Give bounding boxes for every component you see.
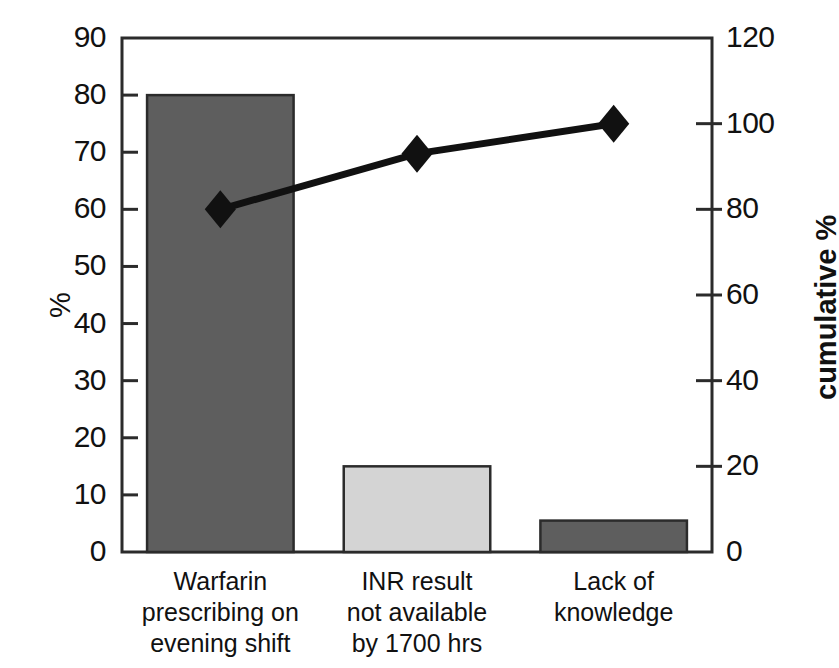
left-tick-label: 70 [20, 136, 106, 166]
y2-axis-title: cumulative % [812, 215, 839, 400]
x-category-label-line: INR result [319, 566, 516, 597]
x-category-label-line: not available [319, 597, 516, 628]
x-category-label-line: knowledge [515, 597, 712, 628]
x-category-label-line: evening shift [122, 628, 319, 659]
left-tick-label: 20 [20, 422, 106, 452]
right-tick-label: 100 [726, 108, 816, 138]
left-tick-label: 30 [20, 365, 106, 395]
x-category-label-line: Lack of [515, 566, 712, 597]
left-tick-label: 90 [20, 22, 106, 52]
left-tick-label: 80 [20, 79, 106, 109]
right-tick-label: 40 [726, 365, 816, 395]
pareto-chart: 9080706050403020100 120100806040200 % cu… [0, 0, 839, 668]
x-category-label-line: prescribing on [122, 597, 319, 628]
right-tick-label: 80 [726, 193, 816, 223]
x-category-label: INR resultnot availableby 1700 hrs [319, 566, 516, 659]
right-tick-label: 60 [726, 279, 816, 309]
diamond-marker [598, 105, 629, 143]
x-category-label: Warfarinprescribing onevening shift [122, 566, 319, 659]
bar [344, 466, 491, 552]
x-category-label: Lack ofknowledge [515, 566, 712, 628]
diamond-marker [401, 135, 432, 173]
right-tick-label: 120 [726, 22, 816, 52]
bar [147, 95, 294, 552]
left-tick-label: 60 [20, 193, 106, 223]
x-category-label-line: by 1700 hrs [319, 628, 516, 659]
left-axis-ticks [122, 95, 138, 495]
left-tick-label: 10 [20, 479, 106, 509]
left-tick-label: 0 [20, 536, 106, 566]
right-tick-label: 20 [726, 450, 816, 480]
right-axis-ticks [696, 124, 722, 467]
y-axis-title: % [46, 292, 75, 318]
left-tick-label: 50 [20, 250, 106, 280]
bar [540, 521, 687, 552]
x-category-label-line: Warfarin [122, 566, 319, 597]
right-tick-label: 0 [726, 536, 816, 566]
